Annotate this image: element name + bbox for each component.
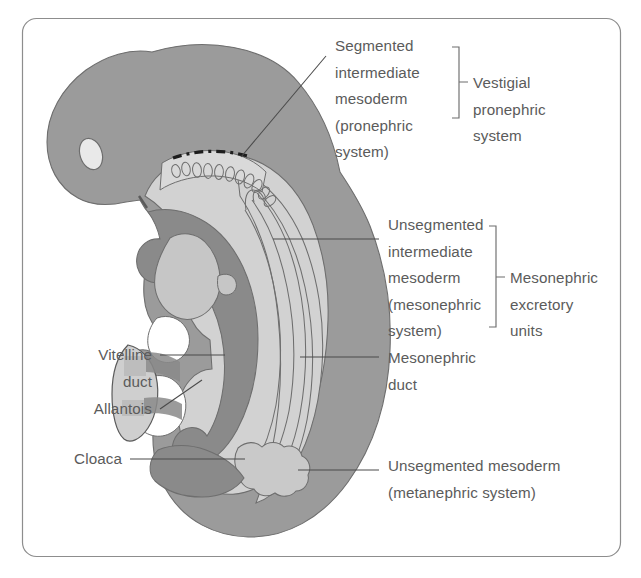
label-line: pronephric — [473, 101, 546, 118]
label-line: (metanephric system) — [388, 484, 536, 501]
label-line: units — [510, 322, 543, 339]
label-line: mesoderm — [335, 90, 408, 107]
label-line: excretory — [510, 296, 574, 313]
label-line: system) — [335, 143, 389, 160]
label-line: (pronephric — [335, 117, 413, 134]
label-line: mesoderm — [388, 269, 461, 286]
label-line: Mesonephric — [388, 349, 476, 366]
label-line: Unsegmented — [388, 216, 484, 233]
label-allantois: Allantois — [94, 400, 153, 417]
label-line: system) — [388, 322, 442, 339]
label-line: Cloaca — [74, 450, 122, 467]
label-line: Unsegmented mesoderm — [388, 457, 561, 474]
label-line: Allantois — [94, 400, 153, 417]
label-line: Vitelline — [98, 346, 152, 363]
label-line: (mesonephric — [388, 296, 482, 313]
foregut-nub — [217, 274, 236, 295]
label-cloaca: Cloaca — [74, 450, 122, 467]
label-line: Vestigial — [473, 74, 530, 91]
label-line: Mesonephric — [510, 269, 598, 286]
label-line: intermediate — [388, 243, 473, 260]
figure-root: Segmented intermediate mesoderm (proneph… — [0, 0, 641, 578]
label-line: duct — [123, 373, 153, 390]
label-line: system — [473, 127, 522, 144]
label-line: intermediate — [335, 64, 420, 81]
label-line: Segmented — [335, 37, 414, 54]
embryo-diagram-svg: Segmented intermediate mesoderm (proneph… — [0, 0, 641, 578]
label-line: duct — [388, 376, 418, 393]
